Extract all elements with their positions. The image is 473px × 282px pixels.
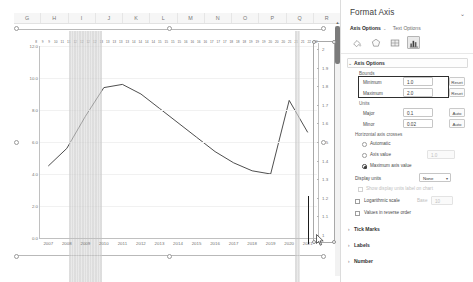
column-header-h[interactable]: H <box>41 13 68 23</box>
chart-handle-middle-left[interactable] <box>14 140 19 145</box>
show-display-units-label-text: Show display units label on chart <box>366 186 433 191</box>
major-unit-label: Major <box>363 111 375 116</box>
chart-handle-top-center[interactable] <box>167 26 172 31</box>
column-header-q[interactable]: Q <box>287 13 314 23</box>
column-header-o[interactable]: O <box>232 13 259 23</box>
major-unit-input[interactable]: 0.1 <box>403 108 433 117</box>
chart-handle-top-left[interactable] <box>14 26 19 31</box>
horizontal-axis-crosses-label: Horizontal axis crosses <box>355 132 402 137</box>
units-group-label: Units <box>359 101 369 106</box>
chart-object[interactable]: 8991011111212121213131313131414141415151… <box>17 29 323 256</box>
logarithmic-scale-label: Logarithmic scale <box>364 198 400 203</box>
category-axis-tick-label: 2017 <box>229 241 239 246</box>
column-header-l[interactable]: L <box>150 13 177 23</box>
category-axis-tick-label: 2019 <box>266 241 276 246</box>
column-header-n[interactable]: N <box>205 13 232 23</box>
display-units-label: Display units <box>355 176 381 181</box>
chart-handle-bottom-right[interactable] <box>321 254 326 259</box>
log-base-input[interactable]: 10 <box>431 196 453 205</box>
major-unit-auto-button[interactable]: Auto <box>449 108 465 117</box>
axis-value-input[interactable]: 1.0 <box>427 150 455 159</box>
section-header-labels[interactable]: ›Labels <box>348 242 370 248</box>
minimum-input[interactable]: 1.0 <box>403 77 433 86</box>
category-axis-tick-label: 2014 <box>173 241 183 246</box>
category-axis-tick-label: 2013 <box>155 241 165 246</box>
tab-axis-options[interactable]: Axis Options <box>350 25 381 31</box>
mouse-cursor-icon <box>316 232 324 244</box>
selected-columns-band <box>295 31 301 282</box>
minor-unit-auto-button[interactable]: Auto <box>449 119 465 128</box>
primary-axis-tick-label: 6.0 <box>32 140 38 145</box>
format-axis-task-pane: Format Axis ⌄ Axis Options ⌄ Text Option… <box>340 0 473 282</box>
pane-divider <box>341 53 473 54</box>
primary-axis-tick-label: 2.0 <box>32 204 38 209</box>
section-header-tick-marks[interactable]: ›Tick Marks <box>348 226 380 232</box>
column-header-j[interactable]: J <box>96 13 123 23</box>
category-axis-tick-label: 2011 <box>118 241 127 246</box>
section-header-number[interactable]: ›Number <box>348 258 373 264</box>
maximum-label: Maximum <box>363 91 383 96</box>
pane-tab-strip[interactable]: Axis Options ⌄ Text Options <box>350 25 421 31</box>
chevron-down-icon-tab[interactable]: ⌄ <box>383 26 386 31</box>
radio-maximum-axis-value-label: Maximum axis value <box>370 163 412 168</box>
primary-axis-tick-label: 10.0 <box>29 76 38 81</box>
selection-handle-br[interactable] <box>332 240 336 244</box>
column-header-row[interactable]: GHIJKLMNOPQR <box>14 13 340 24</box>
category-axis-tick-label: 2016 <box>210 241 220 246</box>
excel-chart-format-axis-screen: GHIJKLMNOPQR 899101111121212121313131313… <box>0 0 473 282</box>
chart-handle-middle-right[interactable] <box>321 140 326 145</box>
maximum-input[interactable]: 2.0 <box>403 88 433 97</box>
primary-value-axis[interactable]: 12.010.08.06.04.02.00.0 <box>39 46 40 238</box>
values-in-reverse-order-checkbox[interactable] <box>355 211 360 216</box>
category-axis-tick-label: 2009 <box>80 241 90 246</box>
category-axis-tick-label: 2007 <box>43 241 53 246</box>
primary-axis-tick-label: 8.0 <box>32 108 38 113</box>
column-header-m[interactable]: M <box>178 13 205 23</box>
display-units-value: None <box>423 176 434 181</box>
column-header-i[interactable]: I <box>69 13 96 23</box>
column-header-p[interactable]: P <box>259 13 286 23</box>
minor-unit-input[interactable]: 0.02 <box>403 119 433 128</box>
display-units-select[interactable]: None ▾ <box>419 173 451 182</box>
maximum-reset-button[interactable]: Reset <box>449 88 465 97</box>
selection-handle-tl[interactable] <box>312 40 316 44</box>
chart-handle-bottom-left[interactable] <box>14 254 19 259</box>
radio-automatic-label: Automatic <box>370 141 390 146</box>
radio-maximum-axis-value[interactable] <box>362 164 367 169</box>
radio-axis-value[interactable] <box>362 153 367 158</box>
primary-axis-tick-label: 12.0 <box>29 44 38 49</box>
effects-icon[interactable] <box>369 36 382 49</box>
pane-body: ⌄Axis Options Bounds Minimum 1.0 Reset M… <box>341 56 473 282</box>
chart-handle-bottom-center[interactable] <box>167 254 172 259</box>
primary-axis-tick-label: 0.0 <box>32 236 38 241</box>
tab-text-options[interactable]: Text Options <box>393 25 421 31</box>
selection-handle-tr[interactable] <box>332 40 336 44</box>
pane-icon-row[interactable] <box>350 36 420 49</box>
category-axis-tick-label: 2015 <box>192 241 202 246</box>
logarithmic-scale-checkbox[interactable] <box>355 199 360 204</box>
values-in-reverse-order-label: Values in reverse order <box>364 210 411 215</box>
column-header-g[interactable]: G <box>14 13 41 23</box>
column-header-k[interactable]: K <box>123 13 150 23</box>
fill-icon[interactable] <box>350 36 363 49</box>
minimum-label: Minimum <box>363 80 382 85</box>
plot-area[interactable] <box>39 46 317 238</box>
axis-options-chart-icon[interactable] <box>407 36 420 49</box>
category-axis-tick-label: 2012 <box>136 241 146 246</box>
chart-handle-top-right[interactable] <box>321 26 326 31</box>
category-axis-tick-label: 2010 <box>99 241 109 246</box>
primary-axis-tick-label: 4.0 <box>32 172 38 177</box>
size-properties-icon[interactable] <box>388 36 401 49</box>
category-axis[interactable]: 2007200820092010201120122013201420152016… <box>39 238 317 239</box>
worksheet-area[interactable]: GHIJKLMNOPQR 899101111121212121313131313… <box>0 0 340 282</box>
radio-axis-value-label: Axis value <box>370 152 391 157</box>
category-axis-tick-label: 2008 <box>62 241 72 246</box>
chevron-down-icon[interactable]: ⌄ <box>460 10 465 17</box>
radio-automatic[interactable] <box>362 142 367 147</box>
axis-drag-indicator <box>308 196 309 244</box>
section-header-axis-options[interactable]: ⌄Axis Options <box>348 60 385 66</box>
minimum-reset-button[interactable]: Reset <box>449 77 465 86</box>
category-axis-tick-label: 2018 <box>247 241 257 246</box>
category-axis-tick-label: 2020 <box>284 241 294 246</box>
show-display-units-label-checkbox[interactable] <box>358 187 363 192</box>
